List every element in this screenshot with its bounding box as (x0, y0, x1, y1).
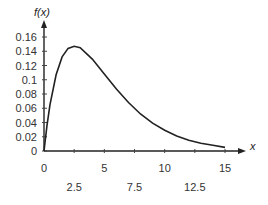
x-tick-label: 0 (41, 162, 47, 174)
axes (41, 20, 246, 154)
x-tick-label: 7.5 (127, 181, 142, 193)
x-axis-label: x (249, 140, 256, 152)
y-tick-label: 0.02 (16, 131, 37, 143)
y-axis-ticks: 00.020.040.060.080.10.120.140.16 (16, 31, 47, 157)
density-curve (44, 46, 225, 151)
y-tick-label: 0.04 (16, 117, 37, 129)
y-tick-label: 0.06 (16, 102, 37, 114)
x-tick-label: 10 (159, 162, 171, 174)
x-tick-label: 15 (219, 162, 231, 174)
x-tick-label: 5 (101, 162, 107, 174)
y-tick-label: 0.08 (16, 88, 37, 100)
x-tick-label: 2.5 (67, 181, 82, 193)
y-tick-label: 0.14 (16, 45, 37, 57)
y-axis-arrow-icon (41, 20, 47, 28)
y-axis-label: f(x) (34, 6, 50, 18)
y-tick-label: 0.12 (16, 60, 37, 72)
x-axis-ticks: 0510152.57.512.5 (41, 149, 231, 193)
y-tick-label: 0 (31, 145, 37, 157)
y-tick-label: 0.16 (16, 31, 37, 43)
x-tick-label: 12.5 (184, 181, 205, 193)
x-axis-arrow-icon (238, 148, 246, 154)
y-tick-label: 0.1 (22, 74, 37, 86)
chart: 00.020.040.060.080.10.120.140.16 0510152… (0, 0, 268, 205)
